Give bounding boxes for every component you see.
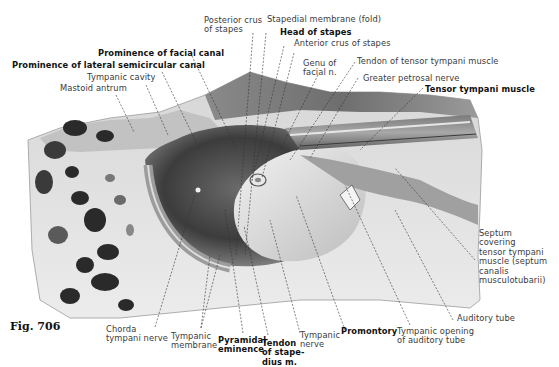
label-line: tympani nerve: [106, 334, 168, 343]
figure-number: Fig. 706: [10, 320, 60, 333]
label-prominence-facial-canal: Prominence of facial canal: [98, 49, 224, 58]
label-tympanic-nerve: Tympanic nerve: [300, 331, 340, 350]
label-anterior-crus: Anterior crus of stapes: [294, 39, 391, 48]
label-line: membrane: [171, 341, 217, 350]
label-tympanic-opening: Tympanic opening of auditory tube: [397, 327, 474, 346]
label-tendon-tensor-tympani: Tendon of tensor tympani muscle: [357, 57, 499, 66]
label-tensor-tympani-muscle: Tensor tympani muscle: [425, 85, 535, 94]
label-auditory-tube: Auditory tube: [457, 314, 515, 323]
label-head-of-stapes: Head of stapes: [280, 28, 352, 37]
label-tympanic-membrane: Tympanic membrane: [171, 332, 217, 351]
label-line: facial n.: [303, 68, 337, 77]
label-prominence-lateral-semicircular: Prominence of lateral semicircular canal: [12, 61, 205, 70]
label-line: of auditory tube: [397, 336, 474, 345]
label-tendon-stapedius: Tendon of stape- dius m.: [262, 339, 305, 367]
label-pyramidal-eminence: Pyramidal eminence: [218, 336, 266, 355]
label-chorda-tympani: Chorda tympani nerve: [106, 325, 168, 344]
label-greater-petrosal-nerve: Greater petrosal nerve: [363, 74, 460, 83]
label-line: eminence: [218, 345, 266, 354]
label-posterior-crus: Posterior crus of stapes: [204, 16, 262, 35]
label-line: nerve: [300, 340, 340, 349]
label-line: dius m.: [262, 358, 305, 367]
label-genu-facial-n: Genu of facial n.: [303, 59, 337, 78]
label-stapedial-membrane: Stapedial membrane (fold): [267, 15, 381, 24]
label-line: of stapes: [204, 25, 262, 34]
label-promontory: Promontory: [341, 327, 397, 336]
label-mastoid-antrum: Mastoid antrum: [60, 84, 127, 93]
label-septum: Septum covering tensor tympani muscle (s…: [479, 229, 547, 285]
label-line: musculotubarii): [479, 276, 547, 285]
label-tympanic-cavity: Tympanic cavity: [87, 73, 155, 82]
